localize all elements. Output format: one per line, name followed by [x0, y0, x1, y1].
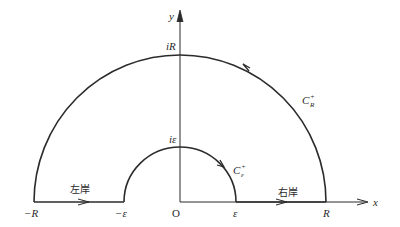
tick-r: R: [322, 207, 330, 219]
right-bank-segment: 右岸: [236, 186, 326, 205]
svg-text:ε: ε: [241, 171, 244, 179]
svg-text:+: +: [241, 163, 246, 171]
origin-label: O: [172, 207, 180, 219]
y-axis-arrow-icon: [177, 10, 183, 22]
svg-text:+: +: [310, 93, 315, 101]
contour-diagram: x y 左岸 右岸 −R −ε O ε R iR iε C + R C + ε: [0, 0, 400, 227]
x-axis-label: x: [372, 196, 378, 208]
tick-i-r: iR: [166, 40, 176, 52]
svg-text:C: C: [302, 94, 310, 106]
label-c-epsilon-plus: C + ε: [233, 163, 246, 179]
left-bank-label: 左岸: [70, 183, 90, 195]
tick-epsilon: ε: [233, 207, 238, 219]
left-bank-segment: 左岸: [34, 183, 124, 205]
label-c-r-plus: C + R: [302, 93, 315, 109]
y-axis-label: y: [168, 10, 174, 22]
tick-minus-epsilon: −ε: [115, 207, 127, 219]
svg-text:R: R: [309, 101, 315, 109]
tick-minus-r: −R: [24, 207, 38, 219]
y-axis: y: [168, 10, 183, 202]
tick-i-epsilon: iε: [169, 133, 177, 145]
right-bank-label: 右岸: [278, 186, 298, 198]
svg-text:C: C: [233, 164, 241, 176]
